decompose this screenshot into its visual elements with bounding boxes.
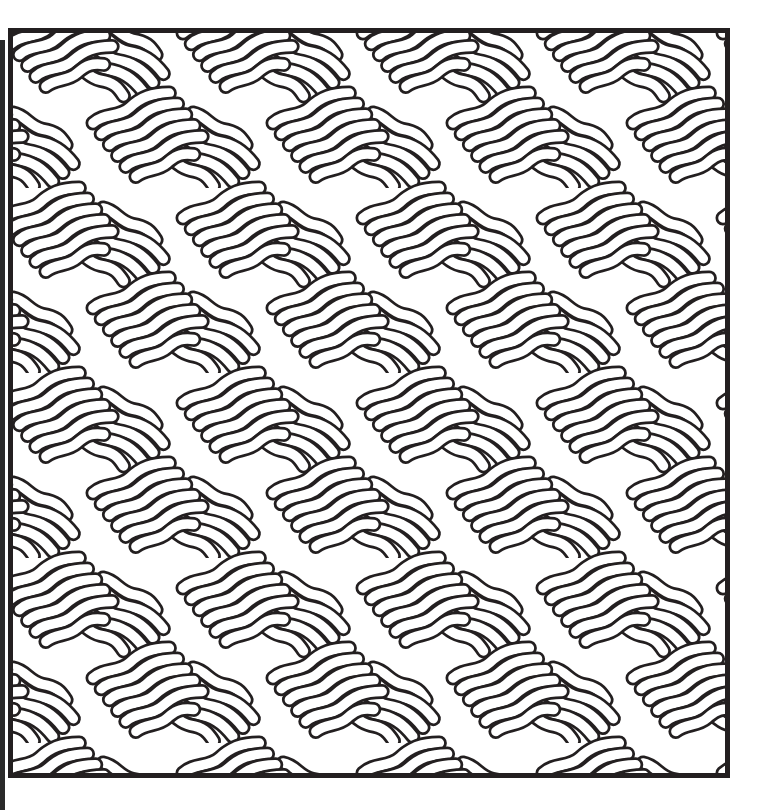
artwork-frame: Wavy noodle tessellation coloring page (8, 28, 730, 778)
noodle-pattern-canvas (13, 33, 725, 773)
noodle-pattern-fill (13, 33, 725, 773)
page-binding-shadow (0, 40, 5, 810)
